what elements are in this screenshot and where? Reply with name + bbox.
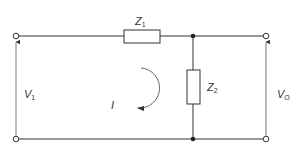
terminal-input-bottom bbox=[13, 136, 19, 142]
vo-label: VO bbox=[277, 88, 290, 101]
z1-label: Z1 bbox=[134, 15, 146, 28]
v1-label: V1 bbox=[24, 88, 35, 101]
junction-top-node bbox=[191, 34, 196, 39]
current-label: I bbox=[111, 99, 114, 111]
z2-impedance bbox=[187, 70, 200, 104]
terminal-input-top bbox=[13, 33, 19, 39]
z1-impedance bbox=[124, 30, 160, 43]
circuit-diagram: Z1 Z2 V1 VO I bbox=[0, 0, 300, 159]
terminal-output-bottom bbox=[263, 136, 269, 142]
terminal-output-top bbox=[263, 33, 269, 39]
junction-bottom-node bbox=[191, 137, 196, 142]
z2-label: Z2 bbox=[206, 81, 218, 94]
loop-current-arrow-icon bbox=[138, 68, 160, 108]
